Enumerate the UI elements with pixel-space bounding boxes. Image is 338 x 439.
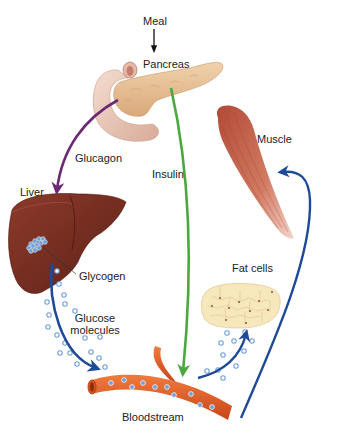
label-muscle: Muscle — [257, 133, 292, 145]
fat-cells-illustration — [201, 283, 280, 328]
label-glucose-molecules: Glucose molecules — [68, 312, 122, 336]
label-glycogen: Glycogen — [79, 270, 125, 282]
label-meal: Meal — [143, 15, 167, 27]
label-glucagon: Glucagon — [75, 152, 122, 164]
insulin-arrow — [171, 88, 189, 372]
label-fat-cells: Fat cells — [232, 262, 273, 274]
label-insulin: Insulin — [152, 168, 184, 180]
label-glucose-line1: Glucose — [68, 312, 122, 324]
label-liver: Liver — [20, 186, 44, 198]
label-glucose-line2: molecules — [68, 324, 122, 336]
label-bloodstream: Bloodstream — [122, 411, 184, 423]
label-pancreas: Pancreas — [143, 58, 189, 70]
bloodstream-vessel — [88, 346, 232, 420]
